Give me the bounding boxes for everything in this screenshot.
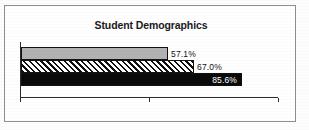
bar-series-1[interactable]: 57.1% [21,47,168,60]
x-axis-tick [149,98,150,102]
bar-value-label: 85.6% [212,74,237,87]
x-axis-tick [278,98,279,102]
plot-area: 57.1% 67.0% 85.6% 0% 50% 100% [20,42,278,97]
chart-border: Student Demographics 57.1% 67.0% [4,5,296,122]
chart-figure: Student Demographics 57.1% 67.0% [0,0,309,130]
bar-series-2[interactable]: 67.0% [21,60,194,73]
bar-series-3[interactable]: 85.6% [21,73,242,86]
chart-title: Student Demographics [5,19,297,31]
x-axis-tick [20,98,21,102]
